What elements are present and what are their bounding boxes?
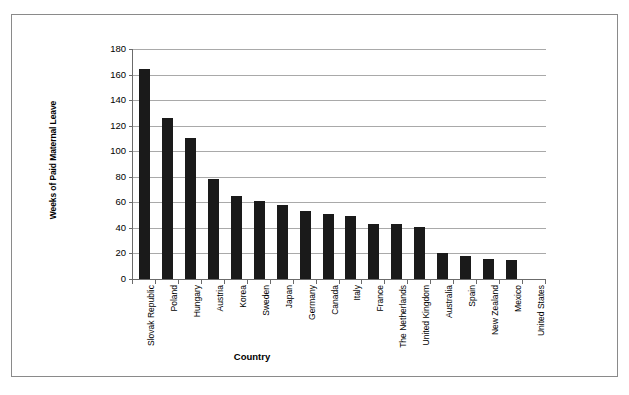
bar bbox=[345, 216, 356, 279]
x-category-label: Hungary bbox=[193, 285, 202, 317]
x-category-label: United States bbox=[537, 285, 546, 336]
bar bbox=[368, 224, 379, 279]
x-axis-category-labels: Slovak RepublicPolandHungaryAustriaKorea… bbox=[132, 285, 546, 351]
x-tickmark bbox=[247, 280, 248, 284]
bar bbox=[483, 259, 494, 279]
x-tickmark bbox=[476, 280, 477, 284]
bar bbox=[300, 211, 311, 279]
x-category-label: New Zealand bbox=[491, 285, 500, 335]
bar bbox=[391, 224, 402, 279]
x-category-label: Italy bbox=[353, 285, 362, 301]
x-tickmark bbox=[293, 280, 294, 284]
x-category-label: France bbox=[376, 285, 385, 311]
y-axis-tick-labels: 180160140120100806040200 bbox=[98, 49, 126, 279]
bar bbox=[208, 179, 219, 279]
x-category-label: Sweden bbox=[262, 285, 271, 316]
bars-group bbox=[133, 49, 546, 279]
x-tickmark bbox=[224, 280, 225, 284]
bar bbox=[437, 253, 448, 279]
bar bbox=[185, 138, 196, 279]
bar bbox=[162, 118, 173, 279]
bar bbox=[277, 205, 288, 279]
x-tickmark bbox=[361, 280, 362, 284]
x-tickmark bbox=[545, 280, 546, 284]
x-category-label: Slovak Republic bbox=[147, 285, 156, 346]
bar bbox=[254, 201, 265, 279]
bar bbox=[323, 214, 334, 279]
x-category-label: Canada bbox=[331, 285, 340, 315]
x-tickmark bbox=[453, 280, 454, 284]
x-category-label: Japan bbox=[285, 285, 294, 308]
y-tick-label: 60 bbox=[98, 198, 126, 208]
y-tick-label: 120 bbox=[98, 121, 126, 131]
x-category-label: Austria bbox=[216, 285, 225, 311]
x-tickmark bbox=[430, 280, 431, 284]
y-tick-label: 140 bbox=[98, 95, 126, 105]
bar bbox=[414, 227, 425, 279]
x-tickmark bbox=[132, 280, 133, 284]
bar bbox=[460, 256, 471, 279]
y-tick-label: 100 bbox=[98, 146, 126, 156]
x-axis-title: Country bbox=[12, 351, 492, 362]
bar bbox=[506, 260, 517, 279]
y-tick-label: 0 bbox=[98, 274, 126, 284]
x-category-label: Korea bbox=[239, 285, 248, 308]
y-tick-label: 40 bbox=[98, 223, 126, 233]
y-axis-title: Weeks of Paid Maternal Leave bbox=[48, 70, 58, 250]
x-tickmark bbox=[178, 280, 179, 284]
plot-area bbox=[132, 49, 546, 280]
x-category-label: Australia bbox=[445, 285, 454, 318]
x-category-label: United Kingdom bbox=[422, 285, 431, 345]
x-category-label: Spain bbox=[468, 285, 477, 307]
bar bbox=[231, 196, 242, 279]
x-tickmark bbox=[339, 280, 340, 284]
x-category-label: Poland bbox=[170, 285, 179, 311]
x-tickmark bbox=[384, 280, 385, 284]
bar bbox=[139, 69, 150, 279]
x-tickmark bbox=[316, 280, 317, 284]
x-tickmark bbox=[499, 280, 500, 284]
bar-chart-figure: Weeks of Paid Maternal Leave 18016014012… bbox=[12, 15, 619, 378]
y-tick-label: 180 bbox=[98, 44, 126, 54]
x-tickmark bbox=[201, 280, 202, 284]
y-tick-label: 20 bbox=[98, 249, 126, 259]
x-category-label: Mexico bbox=[514, 285, 523, 312]
x-tickmark bbox=[155, 280, 156, 284]
x-tickmark bbox=[522, 280, 523, 284]
x-category-label: Germany bbox=[308, 285, 317, 320]
y-tick-label: 160 bbox=[98, 70, 126, 80]
page-frame: Weeks of Paid Maternal Leave 18016014012… bbox=[11, 14, 618, 377]
x-tickmark bbox=[407, 280, 408, 284]
x-tickmark bbox=[270, 280, 271, 284]
x-category-label: The Netherlands bbox=[399, 285, 408, 348]
y-tick-label: 80 bbox=[98, 172, 126, 182]
